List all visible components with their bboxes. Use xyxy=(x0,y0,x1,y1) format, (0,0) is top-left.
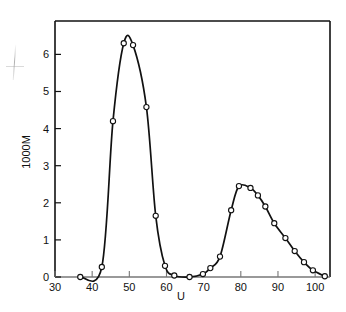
data-point-1 xyxy=(99,264,104,269)
data-point-21 xyxy=(301,260,306,265)
y-axis-tick-labels: 0123456 xyxy=(43,48,49,283)
y-axis-ticks xyxy=(55,54,61,277)
line-chart: 0123456 30405060708090100 U 1000M xyxy=(0,0,346,312)
x-tick-label-40: 40 xyxy=(86,281,98,293)
data-series-curve xyxy=(80,35,325,281)
data-point-6 xyxy=(153,213,158,218)
data-point-23 xyxy=(322,274,327,279)
data-point-0 xyxy=(78,274,83,279)
data-point-10 xyxy=(200,271,205,276)
data-point-5 xyxy=(144,104,149,109)
y-tick-label-4: 4 xyxy=(43,123,49,135)
x-tick-label-70: 70 xyxy=(198,281,210,293)
y-tick-label-5: 5 xyxy=(43,85,49,97)
data-point-3 xyxy=(121,41,126,46)
data-point-22 xyxy=(310,268,315,273)
x-tick-label-100: 100 xyxy=(306,281,324,293)
data-point-8 xyxy=(172,273,177,278)
x-axis-ticks xyxy=(55,271,315,277)
x-tick-label-50: 50 xyxy=(123,281,135,293)
data-point-7 xyxy=(162,263,167,268)
chart-figure: 0123456 30405060708090100 U 1000M xyxy=(0,0,346,312)
x-tick-label-30: 30 xyxy=(49,281,61,293)
data-point-20 xyxy=(292,248,297,253)
data-point-16 xyxy=(255,193,260,198)
y-tick-label-1: 1 xyxy=(43,234,49,246)
data-point-15 xyxy=(248,185,253,190)
plot-frame xyxy=(55,21,330,277)
y-tick-label-6: 6 xyxy=(43,48,49,60)
data-point-11 xyxy=(208,266,213,271)
data-point-12 xyxy=(217,254,222,259)
y-tick-label-2: 2 xyxy=(43,197,49,209)
data-point-18 xyxy=(272,221,277,226)
x-tick-label-90: 90 xyxy=(272,281,284,293)
y-tick-label-3: 3 xyxy=(43,160,49,172)
data-point-13 xyxy=(229,208,234,213)
x-axis-title: U xyxy=(177,290,185,302)
x-axis-tick-labels: 30405060708090100 xyxy=(49,281,324,293)
data-point-9 xyxy=(187,274,192,279)
data-point-4 xyxy=(130,43,135,48)
y-axis-title: 1000M xyxy=(20,135,32,169)
x-tick-label-80: 80 xyxy=(235,281,247,293)
data-point-19 xyxy=(283,235,288,240)
data-point-17 xyxy=(263,204,268,209)
x-tick-label-60: 60 xyxy=(160,281,172,293)
data-point-2 xyxy=(110,119,115,124)
data-point-14 xyxy=(236,184,241,189)
